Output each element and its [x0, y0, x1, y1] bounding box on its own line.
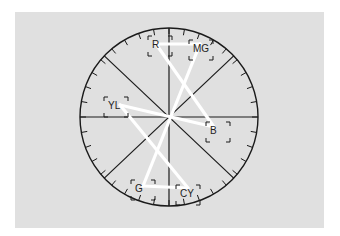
tick-mark	[101, 60, 106, 64]
tick-mark	[197, 195, 199, 201]
tick-mark	[251, 131, 257, 132]
target-label-b: B	[210, 125, 217, 136]
target-bracket	[226, 122, 230, 126]
tick-mark	[139, 195, 141, 201]
target-bracket	[226, 138, 230, 142]
tick-mark	[233, 170, 238, 174]
tick-mark	[101, 170, 106, 174]
vectorscope-display: RMGBCYGYL	[0, 0, 340, 236]
tick-mark	[222, 181, 226, 186]
target-label-yl: YL	[108, 100, 121, 111]
tick-mark	[81, 131, 87, 132]
target-mg: MG	[189, 40, 213, 60]
tick-mark	[197, 33, 199, 39]
target-label-mg: MG	[193, 43, 209, 54]
tick-mark	[125, 189, 128, 194]
tick-mark	[125, 40, 128, 45]
tick-mark	[92, 73, 97, 76]
tick-mark	[241, 159, 246, 162]
tick-mark	[241, 73, 246, 76]
target-label-r: R	[152, 39, 159, 50]
target-b: B	[206, 122, 230, 142]
target-bracket	[124, 97, 128, 101]
tick-mark	[233, 60, 238, 64]
tick-mark	[85, 87, 91, 89]
tick-mark	[251, 102, 257, 103]
tick-mark	[211, 189, 214, 194]
target-label-g: G	[135, 183, 143, 194]
tick-mark	[183, 29, 184, 35]
target-bracket	[151, 180, 155, 184]
trace-lines	[120, 44, 214, 188]
tick-mark	[92, 159, 97, 162]
tick-mark	[183, 199, 184, 205]
tick-mark	[139, 33, 141, 39]
target-bracket	[176, 201, 180, 205]
target-bracket	[206, 138, 210, 142]
tick-mark	[247, 145, 253, 147]
target-bracket	[209, 56, 213, 60]
target-label-cy: CY	[180, 188, 194, 199]
tick-mark	[154, 29, 155, 35]
tick-mark	[112, 181, 116, 186]
tick-mark	[85, 145, 91, 147]
tick-mark	[247, 87, 253, 89]
target-bracket	[196, 185, 200, 189]
target-bracket	[148, 52, 152, 56]
tick-mark	[112, 49, 116, 54]
tick-mark	[81, 102, 87, 103]
tick-mark	[222, 49, 226, 54]
